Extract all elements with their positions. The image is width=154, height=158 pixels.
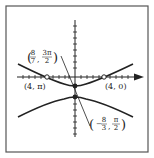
svg-text:,: ,: [37, 55, 40, 64]
svg-text:8: 8: [102, 116, 106, 124]
svg-text:8: 8: [31, 49, 35, 57]
svg-text:(: (: [89, 117, 94, 132]
svg-text:3π: 3π: [42, 49, 51, 57]
svg-text:,: ,: [108, 122, 111, 131]
svg-text:2: 2: [114, 124, 118, 132]
svg-text:7: 7: [31, 57, 35, 65]
svg-text:): ): [53, 50, 58, 65]
label-left-point: (4, π): [24, 82, 46, 91]
vertex-lower-point: [73, 95, 78, 100]
left-open-point: [45, 75, 49, 79]
svg-text:π: π: [114, 116, 119, 124]
svg-text:2: 2: [45, 57, 49, 65]
hyperbola-diagram: ( 8 7 , 3π 2 ) (4, π) (4, 0) ( − 8 3 , π…: [0, 0, 154, 158]
right-open-point: [102, 75, 106, 79]
figure-frame: [6, 6, 148, 152]
vertex-upper-point: [73, 84, 78, 89]
svg-text:): ): [121, 117, 126, 132]
svg-text:3: 3: [102, 124, 106, 132]
label-right-point: (4, 0): [105, 82, 127, 91]
